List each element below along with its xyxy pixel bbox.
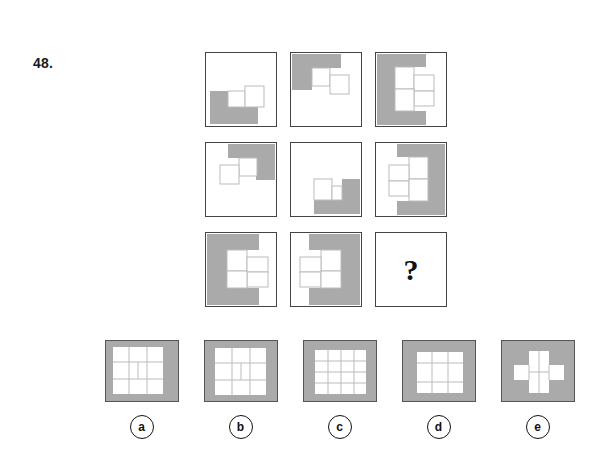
matrix-grid: ?: [205, 52, 460, 322]
matrix-cell-answer-slot: ?: [375, 232, 447, 307]
matrix-row: [205, 52, 460, 142]
answer-options-row: abcde: [92, 340, 587, 439]
answer-option-b-figure[interactable]: [204, 340, 278, 402]
matrix-cell-r2c2: [290, 142, 362, 217]
question-number: 48.: [33, 55, 53, 71]
answer-option-a-figure[interactable]: [105, 340, 179, 402]
answer-option-c-label[interactable]: c: [328, 415, 352, 439]
matrix-cell-r3c1-wrap: [205, 232, 290, 322]
answer-option-b[interactable]: b: [191, 340, 290, 439]
answer-option-c-figure[interactable]: [303, 340, 377, 402]
answer-option-c[interactable]: c: [290, 340, 389, 439]
answer-option-e-figure[interactable]: [501, 340, 575, 402]
matrix-row: ?: [205, 232, 460, 322]
matrix-cell-r2c3: [375, 142, 447, 217]
matrix-cell-r1c2-wrap: [290, 52, 375, 142]
matrix-cell-r2c3-wrap: [375, 142, 460, 232]
matrix-cell-r1c3-wrap: [375, 52, 460, 142]
answer-option-e[interactable]: e: [488, 340, 587, 439]
matrix-cell-r1c3: [375, 52, 447, 127]
answer-option-d-label[interactable]: d: [427, 415, 451, 439]
answer-option-a[interactable]: a: [92, 340, 191, 439]
matrix-cell-r3c1: [205, 232, 277, 307]
matrix-cell-r2c2-wrap: [290, 142, 375, 232]
answer-option-e-label[interactable]: e: [526, 415, 550, 439]
question-page: 48. ? abcde: [0, 0, 614, 462]
matrix-cell-r1c1: [205, 52, 277, 127]
matrix-cell-r3c2-wrap: [290, 232, 375, 322]
matrix-row: [205, 142, 460, 232]
matrix-cell-r1c1-wrap: [205, 52, 290, 142]
answer-option-b-label[interactable]: b: [229, 415, 253, 439]
matrix-cell-r2c1-wrap: [205, 142, 290, 232]
question-mark: ?: [376, 233, 446, 306]
matrix-cell-r3c2: [290, 232, 362, 307]
matrix-cell-r2c1: [205, 142, 277, 217]
matrix-cell-r1c2: [290, 52, 362, 127]
answer-option-d[interactable]: d: [389, 340, 488, 439]
answer-option-d-figure[interactable]: [402, 340, 476, 402]
answer-option-a-label[interactable]: a: [130, 415, 154, 439]
matrix-cell-answer-slot-wrap: ?: [375, 232, 460, 322]
